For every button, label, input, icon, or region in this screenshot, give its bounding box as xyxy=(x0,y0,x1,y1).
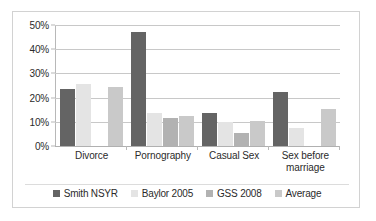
bar[interactable] xyxy=(289,128,304,146)
bar-group xyxy=(56,25,127,146)
bar-group xyxy=(198,25,269,146)
legend-item[interactable]: Average xyxy=(275,188,322,199)
bar-group xyxy=(269,25,340,146)
bar-slot xyxy=(108,25,123,146)
legend-swatch-icon xyxy=(275,190,282,197)
bar[interactable] xyxy=(250,121,265,146)
legend-label: Smith NSYR xyxy=(64,188,118,199)
bar-slot xyxy=(218,25,233,146)
bar-slot xyxy=(60,25,75,146)
bar[interactable] xyxy=(273,92,288,146)
legend-label: Average xyxy=(286,188,322,199)
bar-slot xyxy=(202,25,217,146)
y-tick-label: 50% xyxy=(30,20,49,31)
legend-label: Baylor 2005 xyxy=(142,188,193,199)
bar[interactable] xyxy=(179,116,194,146)
y-tick-mark xyxy=(51,97,55,98)
bar[interactable] xyxy=(108,87,123,146)
bar[interactable] xyxy=(163,118,178,146)
bar-slot xyxy=(234,25,249,146)
bar[interactable] xyxy=(147,113,162,146)
category-label: Divorce xyxy=(56,150,127,174)
y-tick-label: 30% xyxy=(30,68,49,79)
bar-groups xyxy=(56,25,340,146)
y-tick-label: 40% xyxy=(30,44,49,55)
bar-slot xyxy=(131,25,146,146)
bar-slot xyxy=(163,25,178,146)
plot-area: 0%10%20%30%40%50% xyxy=(55,25,340,146)
bar-slot xyxy=(273,25,288,146)
chart-legend: Smith NSYRBaylor 2005GSS 2008Average xyxy=(25,188,349,199)
y-tick-mark xyxy=(51,121,55,122)
bar[interactable] xyxy=(234,133,249,146)
category-label-line: Divorce xyxy=(56,150,127,162)
bar[interactable] xyxy=(60,89,75,146)
chart-frame: 0%10%20%30%40%50% DivorcePornographyCasu… xyxy=(12,11,360,208)
y-tick-mark xyxy=(51,73,55,74)
bar-slot xyxy=(147,25,162,146)
bar[interactable] xyxy=(321,109,336,146)
category-label-line: Casual Sex xyxy=(199,150,270,162)
bar-slot xyxy=(289,25,304,146)
legend-label: GSS 2008 xyxy=(217,188,262,199)
y-tick-label: 20% xyxy=(30,92,49,103)
bar[interactable] xyxy=(218,122,233,146)
bar-slot xyxy=(305,25,320,146)
category-label-line: Sex before xyxy=(270,150,341,162)
bar[interactable] xyxy=(76,84,91,146)
bar-group xyxy=(127,25,198,146)
y-tick-mark xyxy=(51,49,55,50)
x-axis-category-labels: DivorcePornographyCasual SexSex beforema… xyxy=(56,150,341,174)
bar-slot xyxy=(321,25,336,146)
bar[interactable] xyxy=(131,32,146,146)
legend-item[interactable]: Smith NSYR xyxy=(53,188,118,199)
bar-slot xyxy=(92,25,107,146)
y-tick-label: 0% xyxy=(35,141,49,152)
legend-separator xyxy=(25,184,349,185)
y-tick-mark xyxy=(51,146,55,147)
legend-swatch-icon xyxy=(53,190,60,197)
legend-swatch-icon xyxy=(206,190,213,197)
legend-swatch-icon xyxy=(131,190,138,197)
legend-item[interactable]: Baylor 2005 xyxy=(131,188,193,199)
bar-slot xyxy=(250,25,265,146)
category-label: Sex beforemarriage xyxy=(270,150,341,174)
bar-slot xyxy=(76,25,91,146)
category-label: Casual Sex xyxy=(199,150,270,174)
y-tick-mark xyxy=(51,25,55,26)
category-label-line: Pornography xyxy=(127,150,198,162)
bar[interactable] xyxy=(202,113,217,146)
bar-slot xyxy=(179,25,194,146)
legend-item[interactable]: GSS 2008 xyxy=(206,188,262,199)
category-label: Pornography xyxy=(127,150,198,174)
category-label-line: marriage xyxy=(270,162,341,174)
y-tick-label: 10% xyxy=(30,116,49,127)
